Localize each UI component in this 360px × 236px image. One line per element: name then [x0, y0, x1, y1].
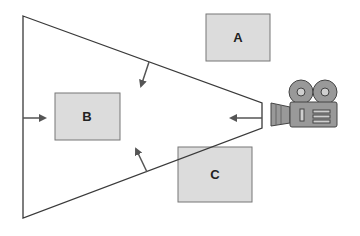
frustum-culling-diagram: A B C	[0, 0, 360, 236]
box-b-label: B	[82, 109, 91, 124]
object-box-b: B	[55, 93, 120, 140]
box-a-label: A	[233, 30, 243, 45]
box-c-label: C	[210, 167, 220, 182]
movie-camera-icon	[271, 80, 337, 127]
bottom-plane-arrow	[136, 149, 147, 172]
object-box-a: A	[206, 14, 270, 61]
top-plane-arrow	[141, 62, 149, 86]
